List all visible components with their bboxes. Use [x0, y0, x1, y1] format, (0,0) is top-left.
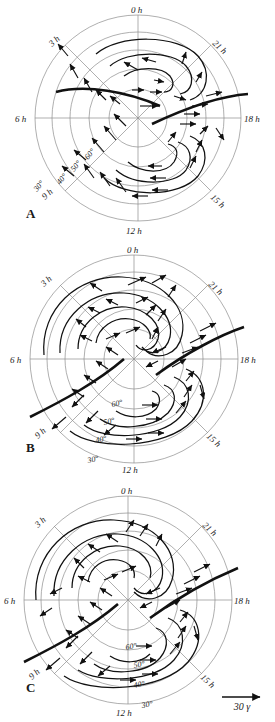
panel-letter-b: B — [26, 440, 35, 456]
lt-label-15h: 15 h — [199, 672, 218, 690]
lt-label-15h: 15 h — [209, 192, 228, 210]
lt-label-0h: 0 h — [121, 486, 133, 496]
lt-label-3h: 3 h — [38, 273, 54, 289]
polar-plot-a: 0 h 3 h 6 h 9 h 12 h 15 h 18 h 21 h 60° … — [0, 0, 275, 240]
graticule-a — [35, 15, 241, 221]
polar-plot-b: 0 h 3 h 6 h 9 h 12 h 15 h 18 h 21 h 60° … — [0, 235, 275, 477]
lat-label-40: 40° — [133, 679, 146, 690]
streamlines-c — [24, 520, 238, 688]
latitude-labels-c: 60° 50° 40° 30° — [125, 641, 154, 710]
lt-label-15h: 15 h — [205, 431, 224, 449]
scale-bar-value: 30 — [234, 701, 244, 712]
scale-bar-unit: γ — [246, 701, 250, 712]
lat-label-50: 50° — [69, 158, 84, 173]
lt-label-3h: 3 h — [32, 514, 48, 530]
lat-label-60: 60° — [125, 641, 138, 652]
lt-label-0h: 0 h — [127, 245, 139, 255]
lt-label-6h: 6 h — [10, 355, 22, 365]
latitude-labels-b: 60° 50° 40° 30° — [86, 398, 125, 466]
lt-label-0h: 0 h — [131, 5, 143, 15]
lt-label-21h: 21 h — [211, 38, 230, 56]
vector-scale-bar: 30 γ — [216, 690, 268, 716]
lt-label-18h: 18 h — [244, 114, 260, 124]
lt-label-21h: 21 h — [201, 520, 220, 538]
lt-label-6h: 6 h — [4, 596, 16, 606]
lt-label-6h: 6 h — [15, 114, 27, 124]
streamlines-a — [56, 39, 248, 193]
scale-bar-label: 30 γ — [216, 701, 268, 712]
lt-label-21h: 21 h — [207, 279, 226, 297]
panel-a: 0 h 3 h 6 h 9 h 12 h 15 h 18 h 21 h 60° … — [0, 0, 275, 240]
polar-plot-c: 0 h 3 h 6 h 9 h 12 h 15 h 18 h 21 h 60° … — [0, 470, 275, 722]
lt-label-18h: 18 h — [234, 596, 250, 606]
panel-letter-a: A — [26, 206, 36, 222]
lat-label-40: 40° — [55, 171, 70, 186]
lt-label-18h: 18 h — [240, 355, 256, 365]
lat-label-30: 30° — [86, 454, 101, 466]
panel-letter-c: C — [26, 680, 36, 696]
lat-label-30: 30° — [140, 699, 154, 710]
panel-b: 0 h 3 h 6 h 9 h 12 h 15 h 18 h 21 h 60° … — [0, 235, 275, 477]
lt-label-9h: 9 h — [33, 425, 48, 440]
panel-c: 0 h 3 h 6 h 9 h 12 h 15 h 18 h 21 h 60° … — [0, 470, 275, 722]
lt-label-12h: 12 h — [116, 708, 132, 718]
